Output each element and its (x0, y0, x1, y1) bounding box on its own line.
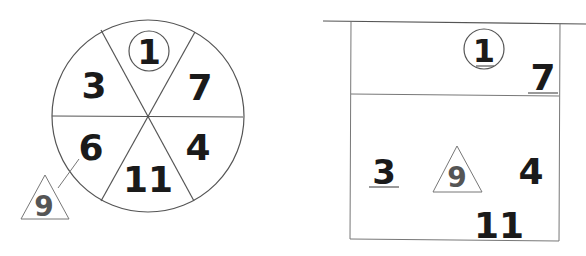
box-diagram: 1 7 3 9 4 11 (323, 21, 586, 246)
diagram-canvas: 1 7 4 11 6 3 9 1 7 3 9 4 11 (0, 0, 586, 256)
box-item-11: 11 (474, 205, 524, 246)
wheel-segment-upper-right: 7 (187, 67, 212, 108)
wheel-segment-lower-right: 4 (185, 127, 210, 168)
wheel-segment-bottom: 11 (123, 159, 173, 200)
box-right-edge (559, 24, 560, 241)
callout-leader-line (58, 159, 79, 188)
box-section-divider (351, 94, 559, 96)
wheel-diagram: 1 7 4 11 6 3 9 (21, 20, 244, 223)
wheel-segment-upper-left: 3 (81, 65, 106, 106)
box-item-7: 7 (530, 57, 555, 98)
box-bottom-edge (350, 239, 559, 241)
wheel-segment-top: 1 (137, 32, 161, 72)
wheel-segment-lower-left: 6 (78, 127, 103, 168)
box-item-4: 4 (518, 151, 543, 192)
box-left-edge (350, 22, 351, 239)
top-rule-line (323, 21, 586, 24)
box-item-3: 3 (372, 152, 396, 192)
box-item-9: 9 (447, 161, 466, 194)
box-item-1: 1 (473, 32, 495, 70)
wheel-callout-label: 9 (34, 190, 53, 223)
